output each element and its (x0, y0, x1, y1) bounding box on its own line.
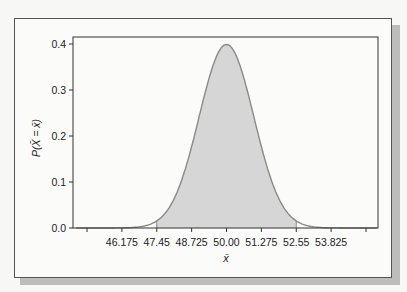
x-tick-label: 47.45 (144, 236, 170, 248)
x-tick-label: 51.275 (245, 236, 277, 248)
y-tick-label: 0.2 (51, 130, 66, 142)
y-tick-label: 0.1 (51, 176, 66, 188)
x-tick-label: 48.725 (176, 236, 208, 248)
y-tick-label: 0.4 (51, 38, 66, 50)
y-axis-label: P(X̄ = x̄) (30, 119, 42, 157)
x-tick-label: 46.175 (106, 236, 138, 248)
x-axis: 46.17547.4548.72550.0051.27552.5553.825 (87, 228, 366, 248)
x-tick-label: 52.55 (283, 236, 309, 248)
y-axis: 0.00.10.20.30.4 (51, 38, 73, 234)
y-tick-label: 0.3 (51, 84, 66, 96)
shaded-area (157, 45, 297, 229)
x-axis-label: x̄ (222, 252, 229, 264)
normal-distribution-chart: 0.00.10.20.30.4 46.17547.4548.72550.0051… (0, 0, 407, 292)
x-tick-label: 50.00 (213, 236, 239, 248)
y-tick-label: 0.0 (51, 222, 66, 234)
x-tick-label: 53.825 (315, 236, 347, 248)
